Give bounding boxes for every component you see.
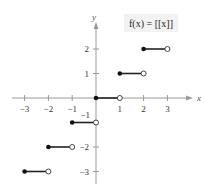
open-dot-icon (141, 71, 146, 76)
step-segment (70, 120, 99, 125)
open-dot-icon (70, 145, 75, 150)
step-function-chart: f(x) = [[x]] −3−2−112321−1−2−3 x y (0, 0, 205, 191)
tick-labels: −3−2−112321−1−2−3 (20, 44, 170, 177)
step-segment (46, 145, 75, 150)
x-axis-arrow-icon (186, 96, 193, 101)
closed-dot-icon (94, 96, 99, 101)
closed-dot-icon (70, 120, 75, 125)
y-axis-label: y (91, 12, 96, 22)
closed-dot-icon (118, 71, 123, 76)
title-text: f(x) = [[x]] (129, 18, 173, 30)
x-tick-label: −3 (20, 104, 30, 114)
closed-dot-icon (141, 47, 146, 52)
y-axis-arrow-icon (94, 22, 99, 29)
step-segment (22, 169, 51, 174)
y-tick-label: −1 (80, 110, 90, 120)
x-tick-label: 1 (118, 104, 123, 114)
closed-dot-icon (22, 169, 27, 174)
open-dot-icon (117, 96, 122, 101)
axes (12, 22, 193, 184)
step-segment (141, 47, 170, 52)
x-axis-label: x (196, 93, 201, 103)
y-tick-label: −2 (79, 142, 89, 152)
y-tick-label: 1 (85, 69, 90, 79)
function-title: f(x) = [[x]] (124, 14, 178, 32)
open-dot-icon (165, 47, 170, 52)
y-tick-label: −3 (79, 167, 89, 177)
x-tick-label: −2 (44, 104, 54, 114)
closed-dot-icon (46, 145, 51, 150)
x-tick-label: −1 (67, 104, 77, 114)
step-segment (94, 96, 123, 101)
open-dot-icon (46, 169, 51, 174)
y-tick-label: 2 (85, 44, 90, 54)
open-dot-icon (94, 120, 99, 125)
x-tick-label: 3 (165, 104, 170, 114)
step-segment (118, 71, 147, 76)
x-tick-label: 2 (141, 104, 146, 114)
